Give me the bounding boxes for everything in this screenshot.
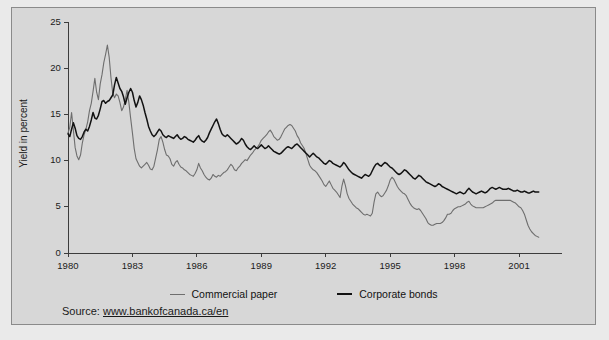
x-tick-label: 1995 bbox=[370, 260, 410, 271]
legend-swatch-corporate-bonds bbox=[337, 293, 352, 295]
x-tick-label: 1986 bbox=[177, 260, 217, 271]
legend-item-commercial-paper: Commercial paper bbox=[170, 288, 278, 300]
legend-swatch-commercial-paper bbox=[170, 294, 185, 295]
x-tick-label: 1980 bbox=[48, 260, 88, 271]
y-tick-label: 5 bbox=[35, 200, 61, 211]
x-tick-label: 1998 bbox=[435, 260, 475, 271]
y-tick-label: 10 bbox=[35, 154, 61, 165]
source-url-link[interactable]: www.bankofcanada.ca/en bbox=[103, 305, 228, 317]
y-tick-label: 25 bbox=[35, 16, 61, 27]
y-tick-label: 15 bbox=[35, 108, 61, 119]
source-note: Source: www.bankofcanada.ca/en bbox=[62, 305, 228, 317]
legend-item-corporate-bonds: Corporate bonds bbox=[337, 288, 437, 300]
chart-frame bbox=[11, 7, 596, 325]
x-tick-label: 1992 bbox=[306, 260, 346, 271]
figure-container: Yield in percent 0510152025 198019831986… bbox=[0, 0, 609, 340]
x-tick-label: 1989 bbox=[241, 260, 281, 271]
y-axis-label: Yield in percent bbox=[18, 74, 29, 194]
x-tick-label: 1983 bbox=[112, 260, 152, 271]
legend-label-commercial-paper: Commercial paper bbox=[192, 288, 278, 300]
source-prefix: Source: bbox=[62, 305, 100, 317]
legend-label-corporate-bonds: Corporate bonds bbox=[359, 288, 437, 300]
y-tick-label: 20 bbox=[35, 62, 61, 73]
x-tick-label: 2001 bbox=[499, 260, 539, 271]
y-tick-label: 0 bbox=[35, 247, 61, 258]
chart-legend: Commercial paper Corporate bonds bbox=[11, 288, 596, 300]
